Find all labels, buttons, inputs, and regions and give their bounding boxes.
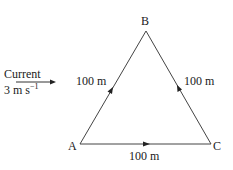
current-speed: 3 m s−1 [4,84,41,97]
vertex-a-label: A [68,140,77,152]
current-label: Current 3 m s−1 [4,68,41,97]
vertex-c-label: C [213,140,221,152]
side-ab-label: 100 m [76,75,106,87]
side-cb-label: 100 m [184,75,214,87]
side-ac-label: 100 m [129,150,159,162]
arrow-AB-icon [108,87,114,94]
arrow-CB-icon [177,85,182,92]
vertex-b-label: B [141,15,149,27]
current-arrowhead-icon [50,80,56,85]
current-title: Current [4,68,41,81]
arrow-AC-icon [143,142,150,147]
